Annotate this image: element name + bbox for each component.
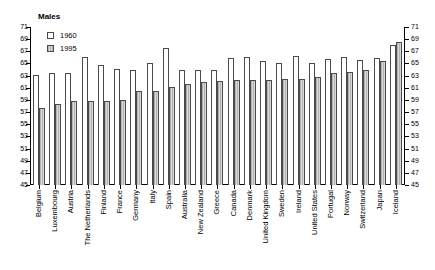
bar-group xyxy=(195,27,207,185)
bar-1995 xyxy=(88,101,94,185)
y-axis-tick-label-right-71: 71 xyxy=(411,23,431,30)
x-axis-label-ireland: Ireland xyxy=(295,190,303,213)
x-axis-tick-mark xyxy=(250,185,251,189)
x-axis-label-portugal: Portugal xyxy=(327,190,335,218)
x-axis-tick-mark xyxy=(217,185,218,189)
bar-group xyxy=(163,27,175,185)
y-axis-tick-label-right-67: 67 xyxy=(411,47,431,54)
bar-group xyxy=(309,27,321,185)
x-axis-tick-mark xyxy=(331,185,332,189)
bar-group xyxy=(390,27,402,185)
y-axis-tick-mark-right-67 xyxy=(405,51,409,52)
bar-group xyxy=(147,27,159,185)
y-axis-tick-label-left-45: 45 xyxy=(8,181,28,188)
y-axis-tick-mark-left-61 xyxy=(26,88,30,89)
bar-1995 xyxy=(266,80,272,185)
x-axis-label-italy: Italy xyxy=(149,190,157,204)
y-axis-tick-label-right-45: 45 xyxy=(411,181,431,188)
y-axis-tick-mark-right-53 xyxy=(405,136,409,137)
y-axis-tick-label-right-51: 51 xyxy=(411,145,431,152)
bar-1995 xyxy=(217,81,223,185)
y-axis-tick-mark-left-65 xyxy=(26,63,30,64)
y-axis-tick-mark-left-57 xyxy=(26,112,30,113)
y-axis-tick-label-right-61: 61 xyxy=(411,84,431,91)
x-axis-tick-mark xyxy=(347,185,348,189)
x-axis-label-belgium: Belgium xyxy=(35,190,43,217)
bar-1995 xyxy=(315,77,321,185)
y-axis-tick-label-right-47: 47 xyxy=(411,169,431,176)
bar-1995 xyxy=(55,104,61,185)
y-axis-tick-mark-left-55 xyxy=(26,124,30,125)
y-axis-tick-mark-left-51 xyxy=(26,149,30,150)
y-axis-tick-label-right-69: 69 xyxy=(411,35,431,42)
bar-group xyxy=(82,27,94,185)
bar-group xyxy=(244,27,256,185)
bar-group xyxy=(341,27,353,185)
y-axis-tick-mark-left-69 xyxy=(26,39,30,40)
x-axis-tick-mark xyxy=(315,185,316,189)
bar-1995 xyxy=(396,42,402,185)
bar-1995 xyxy=(331,73,337,185)
bar-1995 xyxy=(250,80,256,185)
y-axis-tick-label-right-55: 55 xyxy=(411,120,431,127)
y-axis-tick-mark-right-47 xyxy=(405,173,409,174)
y-axis-tick-label-left-65: 65 xyxy=(8,59,28,66)
x-axis-label-france: France xyxy=(116,190,124,213)
y-axis-tick-label-left-47: 47 xyxy=(8,169,28,176)
x-axis-label-luxembourg: Luxembourg xyxy=(51,190,59,232)
x-axis-label-sweden: Sweden xyxy=(278,190,286,217)
y-axis-tick-label-left-67: 67 xyxy=(8,47,28,54)
y-axis-tick-label-left-59: 59 xyxy=(8,96,28,103)
bar-1995 xyxy=(299,79,305,185)
x-axis-tick-mark xyxy=(363,185,364,189)
bar-group xyxy=(211,27,223,185)
x-axis-tick-mark xyxy=(55,185,56,189)
x-axis-tick-mark xyxy=(396,185,397,189)
bar-1995 xyxy=(347,72,353,185)
x-axis-tick-mark xyxy=(153,185,154,189)
bar-1995 xyxy=(120,100,126,185)
x-axis-tick-mark xyxy=(185,185,186,189)
bar-group xyxy=(276,27,288,185)
x-axis-tick-mark xyxy=(120,185,121,189)
bar-group xyxy=(228,27,240,185)
y-axis-tick-mark-right-69 xyxy=(405,39,409,40)
y-axis-tick-mark-left-63 xyxy=(26,76,30,77)
y-axis-tick-mark-left-45 xyxy=(26,185,30,186)
x-axis-ticks xyxy=(31,185,404,189)
x-axis-label-united-kingdom: United Kingdom xyxy=(262,190,270,243)
y-axis-tick-label-left-55: 55 xyxy=(8,120,28,127)
bar-1995 xyxy=(153,91,159,185)
y-axis-tick-label-right-59: 59 xyxy=(411,96,431,103)
bar-1995 xyxy=(169,87,175,185)
y-axis-tick-label-left-63: 63 xyxy=(8,72,28,79)
bar-group xyxy=(130,27,142,185)
bar-group xyxy=(357,27,369,185)
y-axis-tick-mark-right-65 xyxy=(405,63,409,64)
bar-group xyxy=(49,27,61,185)
y-axis-tick-label-left-61: 61 xyxy=(8,84,28,91)
y-axis-tick-label-left-49: 49 xyxy=(8,157,28,164)
y-axis-tick-mark-left-47 xyxy=(26,173,30,174)
y-axis-tick-label-left-57: 57 xyxy=(8,108,28,115)
y-axis-tick-mark-right-59 xyxy=(405,100,409,101)
y-axis-tick-mark-right-51 xyxy=(405,149,409,150)
bar-1995 xyxy=(201,82,207,185)
y-axis-tick-label-right-53: 53 xyxy=(411,132,431,139)
y-axis-tick-label-left-71: 71 xyxy=(8,23,28,30)
y-axis-tick-label-left-53: 53 xyxy=(8,132,28,139)
bar-1995 xyxy=(380,61,386,185)
x-axis-tick-mark xyxy=(169,185,170,189)
y-axis-tick-mark-right-61 xyxy=(405,88,409,89)
y-axis-tick-mark-left-71 xyxy=(26,27,30,28)
y-axis-tick-label-right-49: 49 xyxy=(411,157,431,164)
x-axis-tick-mark xyxy=(71,185,72,189)
x-axis-label-united-states: United States xyxy=(311,190,319,235)
x-axis-tick-mark xyxy=(266,185,267,189)
y-axis-tick-mark-right-57 xyxy=(405,112,409,113)
y-axis-tick-mark-right-63 xyxy=(405,76,409,77)
bar-1995 xyxy=(71,101,77,185)
x-axis-tick-mark xyxy=(88,185,89,189)
bar-group xyxy=(98,27,110,185)
bar-1995 xyxy=(282,79,288,185)
